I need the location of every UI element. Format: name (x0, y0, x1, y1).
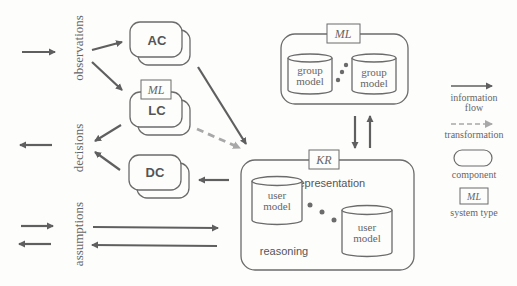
svg-text:ML: ML (147, 83, 165, 97)
representation-label: representation (295, 177, 365, 189)
svg-text:component: component (452, 169, 497, 180)
legend-system-type: ML system type (450, 188, 498, 218)
ac-to-kr-arrow (198, 67, 246, 144)
svg-text:KR: KR (315, 153, 332, 167)
lc-system-type-tag: ML (141, 80, 171, 99)
reasoning-label: reasoning (260, 245, 308, 257)
svg-text:model: model (353, 232, 381, 244)
lc-to-kr-transformation-arrow (197, 129, 240, 148)
assumptions-label: assumptions (71, 202, 86, 266)
svg-text:ML: ML (334, 27, 352, 41)
decisions-label: decisions (71, 124, 86, 172)
diagram-canvas: observations decisions assumptions AC ML… (0, 0, 517, 286)
group-model-box: ML group model group model (281, 24, 408, 104)
svg-text:system type: system type (450, 207, 498, 218)
kr-to-assumptions-arrow (92, 245, 217, 246)
component-dc-label: DC (146, 165, 165, 180)
kr-box: KR representation reasoning user model u… (241, 150, 414, 270)
group-system-type-tag: ML (327, 24, 360, 43)
svg-text:model: model (263, 200, 291, 212)
user-model-cylinder-2: user model (342, 206, 392, 257)
component-ac: AC (130, 22, 190, 65)
group-model-cylinder-1: group model (288, 54, 332, 94)
observations-to-lc-arrow (92, 62, 122, 90)
observations-to-ac-arrow (92, 42, 122, 50)
svg-text:transformation: transformation (445, 129, 504, 140)
component-dc: DC (129, 155, 189, 198)
legend-information-flow: information flow (450, 86, 497, 113)
dc-to-decisions-arrow (95, 152, 120, 170)
kr-system-type-tag: KR (309, 150, 339, 169)
svg-text:model: model (360, 77, 388, 89)
legend-component: component (452, 150, 497, 180)
component-ac-label: AC (148, 33, 167, 48)
svg-text:ML: ML (466, 191, 481, 202)
observations-label: observations (71, 15, 86, 81)
svg-text:flow: flow (465, 102, 484, 113)
user-model-cylinder-1: user model (252, 177, 302, 225)
component-lc-label: LC (148, 103, 166, 118)
lc-to-decisions-arrow (95, 125, 121, 141)
group-model-cylinder-2: group model (352, 54, 396, 94)
legend: information flow transformation componen… (445, 86, 504, 218)
legend-transformation: transformation (445, 124, 504, 140)
component-lc: ML LC (130, 80, 190, 135)
svg-text:model: model (296, 75, 324, 87)
assumptions-to-kr-arrow (93, 227, 218, 228)
